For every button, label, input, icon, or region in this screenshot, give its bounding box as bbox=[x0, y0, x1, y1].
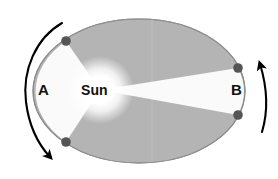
marker-lower-left bbox=[61, 137, 71, 147]
arrow-right-orbital-direction bbox=[260, 64, 266, 132]
marker-lower-right bbox=[233, 110, 243, 120]
sector-a-label: A bbox=[38, 82, 49, 97]
marker-upper-left bbox=[61, 36, 71, 46]
sun-label: Sun bbox=[81, 83, 108, 97]
marker-upper-right bbox=[233, 63, 243, 73]
diagram-canvas: A Sun B bbox=[0, 0, 278, 179]
sector-b-label: B bbox=[231, 82, 242, 97]
